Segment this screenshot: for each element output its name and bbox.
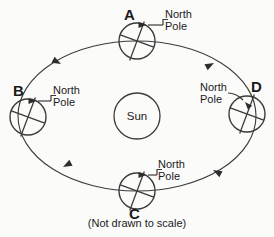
earth-d-equator-line [230,108,263,120]
sun-circle [114,93,160,139]
diagram-canvas [0,0,274,237]
orbit-arrow-toward-c [61,160,72,170]
orbit-arrow-toward-a [204,60,215,70]
orbit-ellipse [18,41,256,191]
earth-b-equator-line [11,111,44,123]
earth-position-b [10,98,46,137]
earth-orbit-diagram: A B C D North Pole North Pole North Pole… [0,0,274,237]
orbit-arrow-toward-d [211,167,222,177]
north-pole-pointer-b [29,96,57,104]
earth-position-d [229,95,265,134]
